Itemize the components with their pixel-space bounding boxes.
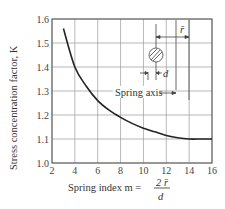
svg-text:14: 14 [184, 165, 194, 176]
svg-text:10: 10 [138, 165, 148, 176]
svg-text:1.3: 1.3 [37, 86, 50, 97]
svg-text:6: 6 [95, 165, 100, 176]
svg-text:2: 2 [50, 165, 55, 176]
y-axis-label: Stress concentration factor, K [8, 45, 19, 170]
svg-text:4: 4 [72, 165, 77, 176]
svg-text:1.0: 1.0 [37, 158, 50, 169]
spring-axis-label: Spring axis [115, 87, 163, 98]
svg-text:1.5: 1.5 [37, 38, 50, 49]
svg-text:12: 12 [161, 165, 171, 176]
svg-text:16: 16 [207, 165, 217, 176]
x-label-frac-num: 2 r̄ [156, 177, 169, 188]
chart: 2468101214161.01.11.21.31.41.51.6 r̄ d S… [0, 0, 225, 209]
svg-text:1.6: 1.6 [37, 14, 50, 25]
x-label-frac-den: d [158, 191, 164, 202]
svg-text:1.4: 1.4 [37, 62, 50, 73]
svg-text:1.2: 1.2 [37, 110, 50, 121]
svg-text:8: 8 [118, 165, 123, 176]
r-label: r̄ [180, 24, 185, 35]
k-curve [63, 29, 212, 139]
x-axis-label: Spring index m = [68, 182, 141, 193]
svg-text:1.1: 1.1 [37, 134, 50, 145]
d-label: d [163, 68, 169, 79]
